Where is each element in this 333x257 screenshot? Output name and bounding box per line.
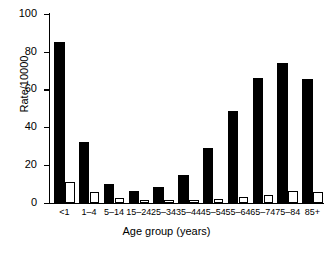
bar-black: [104, 184, 115, 203]
y-tick-label: 0: [31, 196, 37, 208]
bar-white: [288, 191, 298, 202]
plot-area: 020406080100: [49, 13, 324, 204]
bar-black: [129, 191, 140, 202]
bar-group: [153, 14, 174, 203]
bar-group: [302, 14, 323, 203]
x-tick-label: 55–64: [226, 207, 251, 217]
x-tick-label: 85+: [305, 207, 320, 217]
x-tick-label: 25–34: [151, 207, 176, 217]
y-tick-label: 40: [25, 120, 37, 132]
bar-group: [277, 14, 298, 203]
bar-group-container: [50, 14, 323, 203]
bar-black: [302, 79, 313, 203]
x-tick-label: <1: [59, 207, 69, 217]
x-tick-label: 1–4: [82, 207, 97, 217]
bar-black: [203, 148, 214, 203]
x-tick-label: 15–24: [126, 207, 151, 217]
bar-black: [54, 42, 65, 203]
x-tick-label: 5–14: [104, 207, 124, 217]
x-axis-title: Age group (years): [0, 225, 333, 237]
y-tick-label: 60: [25, 82, 37, 94]
bar-group: [129, 14, 150, 203]
bar-white: [164, 200, 174, 203]
bar-white: [214, 199, 224, 203]
y-tick: 20: [44, 165, 49, 166]
x-tick-label: 65–74: [250, 207, 275, 217]
bar-group: [54, 14, 75, 203]
bar-black: [178, 175, 189, 202]
x-axis-line: [49, 203, 324, 204]
bar-white: [90, 192, 100, 202]
bar-group: [203, 14, 224, 203]
y-tick-label: 80: [25, 45, 37, 57]
y-tick: 60: [44, 89, 49, 90]
bar-black: [228, 111, 239, 203]
y-tick: 40: [44, 127, 49, 128]
bar-group: [228, 14, 249, 203]
y-tick-label: 100: [19, 7, 37, 19]
x-tick-label: 75–84: [275, 207, 300, 217]
y-tick-label: 20: [25, 158, 37, 170]
bar-black: [79, 142, 90, 202]
y-tick: 0: [44, 203, 49, 204]
bar-black: [253, 78, 264, 203]
y-tick: 100: [44, 14, 49, 15]
bar-black: [277, 63, 288, 203]
chart-figure: Rate/10000 020406080100 <11–45–1415–2425…: [0, 0, 333, 257]
bar-group: [178, 14, 199, 203]
bar-white: [239, 197, 249, 203]
bar-white: [65, 182, 75, 203]
bar-group: [104, 14, 125, 203]
x-tick-label: 45–54: [201, 207, 226, 217]
bar-white: [313, 192, 323, 202]
bar-white: [115, 198, 125, 203]
bar-white: [140, 200, 150, 203]
bar-group: [253, 14, 274, 203]
bar-group: [79, 14, 100, 203]
bar-white: [264, 195, 274, 203]
bar-black: [153, 187, 164, 203]
bar-white: [189, 200, 199, 203]
y-tick: 80: [44, 52, 49, 53]
x-tick-label: 35–44: [176, 207, 201, 217]
